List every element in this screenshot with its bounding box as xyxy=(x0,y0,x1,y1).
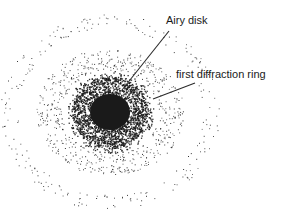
first-diffraction-ring-label: first diffraction ring xyxy=(176,69,266,80)
scatter-dots xyxy=(1,15,219,209)
airy-disk-core xyxy=(90,94,130,130)
airy-disk-diagram: Airy disk first diffraction ring xyxy=(0,0,281,211)
diffraction-pattern xyxy=(0,0,281,211)
airy-disk-label: Airy disk xyxy=(166,15,208,26)
